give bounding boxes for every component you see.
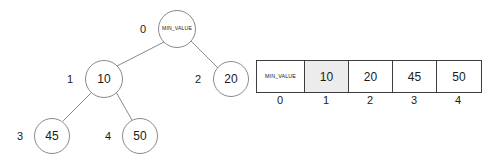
array-cell-value-1: 10 [320,71,333,83]
array-representation: MIN_VALUE10204550 [256,60,482,93]
array-cell-value-0: MIN_VALUE [265,74,296,79]
tree-node-0: MIN_VALUE [158,10,196,48]
heap-diagram: 0MIN_VALUE110220345450 MIN_VALUE10204550… [0,0,501,168]
array-cell-2: 20 [349,61,393,92]
array-index-1: 1 [304,95,348,106]
tree-node-index-1: 1 [67,74,73,85]
tree-node-1: 10 [85,60,123,98]
tree-edge-0-2 [191,41,218,68]
array-index-2: 2 [348,95,392,106]
array-index-0: 0 [256,95,304,106]
array-index-row: 01234 [256,95,480,106]
array-cell-3: 45 [393,61,437,92]
array-cell-value-4: 50 [452,71,465,83]
tree-node-index-2: 2 [195,74,201,85]
array-index-4: 4 [436,95,480,106]
tree-node-value-1: 10 [97,73,110,85]
tree-node-3: 45 [34,118,70,154]
tree-edge-0-1 [117,42,164,66]
tree-node-value-0: MIN_VALUE [162,26,192,31]
tree-node-2: 20 [213,61,249,97]
tree-node-value-4: 50 [133,130,146,142]
tree-node-index-3: 3 [17,131,23,142]
tree-node-index-4: 4 [105,131,111,142]
tree-node-value-2: 20 [224,73,237,85]
array-cell-0: MIN_VALUE [257,61,305,92]
tree-edge-1-3 [63,92,92,121]
tree-node-4: 50 [122,118,158,154]
array-cell-value-3: 45 [408,71,421,83]
tree-node-index-0: 0 [140,24,146,35]
array-cell-value-2: 20 [364,71,377,83]
array-cell-1: 10 [305,61,349,92]
array-cell-4: 50 [437,61,481,92]
array-index-3: 3 [392,95,436,106]
tree-node-value-3: 45 [45,130,58,142]
tree-edge-1-4 [116,92,132,120]
